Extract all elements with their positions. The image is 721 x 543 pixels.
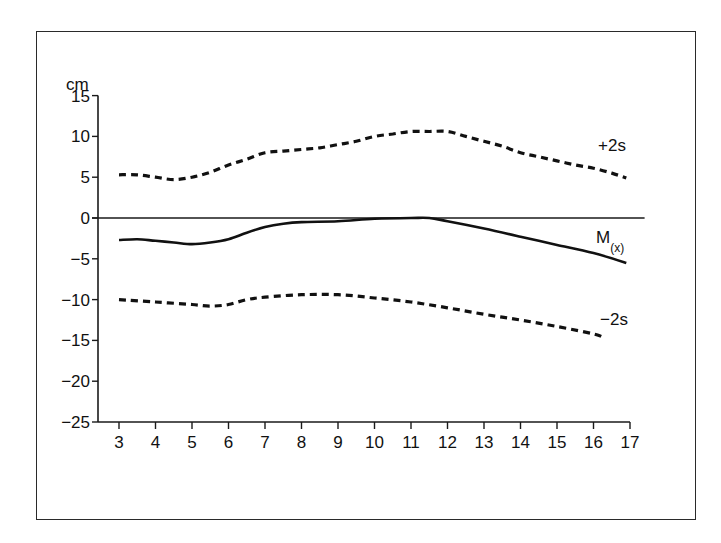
- x-tick-label: 15: [548, 433, 567, 452]
- y-tick-label: 0: [81, 209, 90, 228]
- x-tick-label: 17: [621, 433, 640, 452]
- x-tick-label: 5: [187, 433, 196, 452]
- x-tick-label: 9: [333, 433, 342, 452]
- mean-label: M(x): [596, 228, 624, 255]
- x-tick-label: 7: [260, 433, 269, 452]
- y-tick-label: −15: [61, 331, 90, 350]
- y-tick-label: 10: [71, 127, 90, 146]
- x-tick-label: 3: [114, 433, 123, 452]
- plus-2s-label: +2s: [598, 136, 626, 155]
- minus-2s-label: −2s: [600, 310, 628, 329]
- x-tick-label: 8: [297, 433, 306, 452]
- mean-curve: [119, 218, 626, 263]
- series-layer: [119, 131, 626, 338]
- minus-2s-curve: [119, 294, 605, 338]
- line-chart: 151050−5−10−15−20−2534567891011121314151…: [0, 0, 721, 543]
- x-tick-label: 16: [584, 433, 603, 452]
- x-tick-label: 11: [402, 433, 420, 452]
- axes: 151050−5−10−15−20−2534567891011121314151…: [61, 87, 639, 452]
- x-tick-label: 6: [224, 433, 233, 452]
- y-tick-label: −5: [71, 250, 90, 269]
- y-tick-label: 5: [81, 168, 90, 187]
- x-tick-label: 13: [475, 433, 494, 452]
- plus-2s-curve: [119, 131, 626, 179]
- y-tick-label: −10: [61, 291, 90, 310]
- y-axis-unit-label: cm: [66, 75, 89, 94]
- y-tick-label: −25: [61, 413, 90, 432]
- x-tick-label: 12: [438, 433, 457, 452]
- mean-label-main: M: [596, 228, 610, 247]
- mean-label-subscript: (x): [610, 241, 624, 255]
- x-tick-label: 10: [365, 433, 384, 452]
- x-tick-label: 4: [151, 433, 160, 452]
- x-tick-label: 14: [511, 433, 530, 452]
- y-tick-label: −20: [61, 372, 90, 391]
